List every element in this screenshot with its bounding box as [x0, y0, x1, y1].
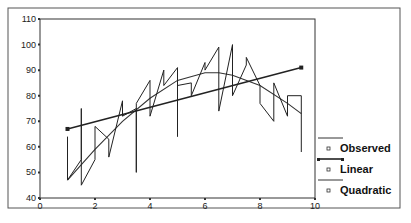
linear-endpoint-marker — [66, 127, 70, 131]
x-tick-label: 0 — [37, 201, 42, 211]
x-tick-label: 8 — [257, 201, 262, 211]
legend-label-quadratic: Quadratic — [340, 184, 391, 196]
legend-linear-endpoint-icon — [317, 158, 320, 161]
y-tick-label: 40 — [26, 193, 36, 203]
x-tick-label: 4 — [147, 201, 152, 211]
y-tick-label: 100 — [21, 40, 36, 50]
y-tick-label: 70 — [26, 116, 36, 126]
y-tick-label: 90 — [26, 65, 36, 75]
legend-label-linear: Linear — [340, 163, 374, 175]
chart-canvas: 405060708090100110 0246810 Observed Line… — [0, 0, 411, 223]
linear-endpoint-marker — [299, 66, 303, 70]
x-tick-label: 2 — [92, 201, 97, 211]
legend-linear-endpoint-icon — [341, 158, 344, 161]
y-tick-label: 110 — [22, 14, 36, 24]
y-tick-label: 50 — [26, 167, 36, 177]
x-tick-label: 10 — [310, 201, 320, 211]
y-tick-label: 60 — [26, 142, 36, 152]
legend-label-observed: Observed — [340, 142, 391, 154]
x-tick-label: 6 — [202, 201, 207, 211]
y-tick-label: 80 — [26, 91, 36, 101]
